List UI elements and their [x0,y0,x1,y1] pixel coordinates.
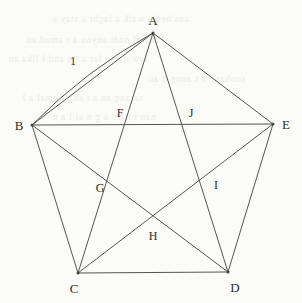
vertex-dot-C [77,272,80,275]
pentagon-side-CD [78,272,228,273]
measure-label-side-length: 1 [70,56,76,68]
vertex-label-B: B [15,119,24,132]
pentagon-side-EA [153,33,273,124]
vertex-dot-A [152,32,155,35]
vertex-label-E: E [282,118,290,131]
pentagon-diagonal-CE [78,124,273,273]
pentagon-diagonal-AC [78,33,153,273]
intersection-label-G: G [96,182,105,194]
pentagon-side-DE [228,124,273,272]
pentagon-diagonal-AD [153,33,228,272]
pentagon-diagram-svg [0,0,302,303]
intersection-label-J: J [189,107,194,119]
pentagon-side-AB [32,33,153,125]
intersection-label-I: I [214,179,218,191]
intersection-label-F: F [117,107,124,119]
pentagon-diagonal-BD [32,125,228,272]
vertex-label-C: C [70,282,79,295]
vertex-label-A: A [148,14,157,27]
geometry-figure: aus bed a walk a laghi a stay acurral na… [0,0,302,303]
pentagon-diagonal-BE [32,124,273,125]
vertex-dot-E [272,123,275,126]
vertex-dot-D [227,271,230,274]
vertex-label-D: D [230,281,239,294]
vertex-dot-B [31,124,34,127]
intersection-label-H: H [149,230,158,242]
pentagon-side-BC [32,125,78,273]
